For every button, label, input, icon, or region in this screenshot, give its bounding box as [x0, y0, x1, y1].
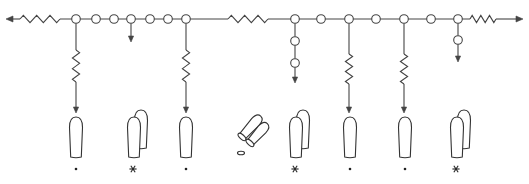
- node-circle: [127, 15, 136, 24]
- resistor-icon: [20, 15, 60, 22]
- resistor-icon: [228, 15, 268, 22]
- node-circle: [345, 15, 354, 24]
- item-double: [128, 110, 148, 172]
- capsule-shape-front: [290, 117, 303, 158]
- item-double: [451, 110, 471, 172]
- capsule-shape-front: [128, 117, 141, 158]
- node-circle: [164, 15, 173, 24]
- arrow-down-icon: [346, 107, 351, 113]
- branch-7: [454, 23, 463, 62]
- resistor-icon: [470, 15, 496, 22]
- dot-marker: [404, 168, 407, 171]
- capsule-shape: [399, 117, 412, 158]
- item-double: [290, 110, 310, 172]
- capsule-shape: [180, 117, 193, 158]
- main-line: [6, 15, 523, 22]
- main-nodes: [72, 15, 463, 24]
- node-circle: [72, 15, 81, 24]
- item-single: [344, 117, 357, 170]
- node-circle: [291, 59, 300, 68]
- branch-1: [72, 23, 79, 113]
- dot-marker: [185, 168, 188, 171]
- node-circle: [454, 36, 463, 45]
- node-circle: [317, 15, 326, 24]
- branch-4: [291, 23, 300, 83]
- capsule-shape: [344, 117, 357, 158]
- item-single: [70, 117, 83, 170]
- branch-6: [400, 23, 407, 113]
- node-circle: [291, 37, 300, 46]
- arrow-left-icon: [6, 16, 13, 22]
- node-circle: [110, 15, 119, 24]
- item-tilted-pair: [237, 113, 271, 155]
- node-circle: [182, 15, 191, 24]
- asterisk-marker: [452, 166, 459, 172]
- branch-3: [182, 23, 189, 113]
- arrow-down-icon: [183, 107, 188, 113]
- resistor-icon: [72, 50, 79, 82]
- resistor-icon: [400, 54, 407, 84]
- dot-marker: [349, 168, 352, 171]
- resistor-icon: [345, 54, 352, 84]
- asterisk-marker: [129, 166, 136, 172]
- arrow-down-icon: [455, 56, 460, 62]
- capsule-shape: [70, 117, 83, 158]
- node-circle: [291, 15, 300, 24]
- node-circle: [400, 15, 409, 24]
- item-single: [399, 117, 412, 170]
- item-single: [180, 117, 193, 170]
- node-circle: [92, 15, 101, 24]
- arrow-down-icon: [128, 36, 133, 42]
- capsule-shape-front: [451, 117, 464, 158]
- node-circle: [372, 15, 381, 24]
- node-circle: [454, 15, 463, 24]
- asterisk-marker: [291, 166, 298, 172]
- branch-2: [128, 23, 133, 42]
- branch-5: [345, 23, 352, 113]
- network-diagram: [0, 0, 529, 184]
- node-circle: [427, 15, 436, 24]
- arrow-right-icon: [516, 16, 523, 22]
- node-circle: [146, 15, 155, 24]
- arrow-down-icon: [401, 107, 406, 113]
- small-oval-marker: [238, 151, 245, 155]
- resistor-icon: [182, 50, 189, 82]
- arrow-down-icon: [73, 107, 78, 113]
- dot-marker: [75, 168, 78, 171]
- arrow-down-icon: [292, 77, 297, 83]
